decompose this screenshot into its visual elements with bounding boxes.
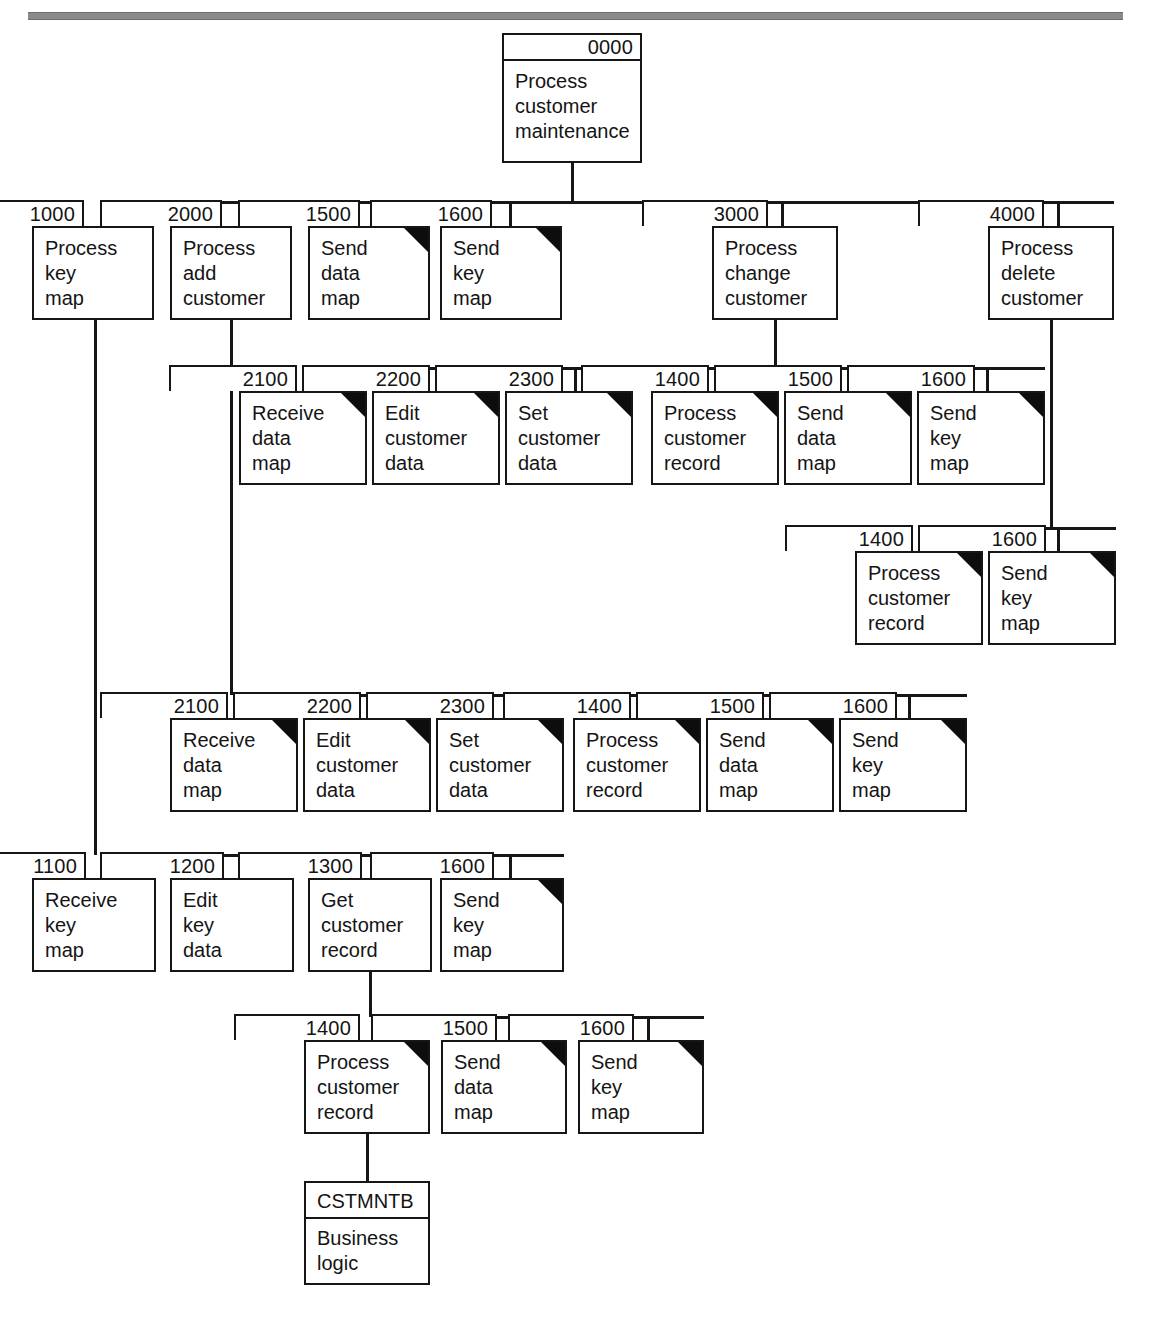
- module-number-tab: 1400: [234, 1014, 360, 1040]
- module-1600-keymap[interactable]: 1600 Send key map: [370, 852, 564, 972]
- module-number-tab: 1400: [503, 692, 631, 718]
- module-number: 3000: [714, 204, 759, 224]
- module-number: 1400: [859, 529, 904, 549]
- module-line-1: Process: [515, 69, 640, 94]
- structure-chart-canvas: 0000 Process customer maintenance 1000 P…: [0, 0, 1151, 1336]
- module-box[interactable]: Send key map: [917, 391, 1045, 485]
- module-number: 1500: [443, 1018, 488, 1038]
- module-number-tab: 1200: [100, 852, 224, 878]
- module-1600-add[interactable]: 1600 Send key map: [769, 692, 967, 812]
- module-line-3: map: [453, 286, 560, 311]
- store-line-2: logic: [317, 1251, 428, 1276]
- module-number-tab: 1600: [769, 692, 897, 718]
- module-cstmntb[interactable]: CSTMNTB Business logic: [304, 1181, 430, 1285]
- module-number: 2300: [440, 696, 485, 716]
- module-number-tab: 1600: [508, 1014, 634, 1040]
- module-number-tab: 1100: [0, 852, 86, 878]
- module-number: 1500: [788, 369, 833, 389]
- module-line-2: key: [852, 753, 965, 778]
- module-line-2: key: [930, 426, 1043, 451]
- module-number-tab: 4000: [918, 200, 1044, 226]
- module-line-3: customer: [1001, 286, 1112, 311]
- module-number-tab: 3000: [642, 200, 768, 226]
- module-line-3: map: [453, 938, 562, 963]
- module-box[interactable]: Send key map: [440, 878, 564, 972]
- module-number-tab: 1600: [847, 365, 975, 391]
- module-number-tab: 2100: [169, 365, 297, 391]
- module-number: 1600: [992, 529, 1037, 549]
- module-line-3: maintenance: [515, 119, 640, 144]
- store-box[interactable]: CSTMNTB Business logic: [304, 1181, 430, 1285]
- module-number-tab: 2300: [366, 692, 494, 718]
- module-line-3: map: [852, 778, 965, 803]
- module-box[interactable]: Send key map: [988, 551, 1116, 645]
- module-number: 2300: [509, 369, 554, 389]
- module-3000[interactable]: 3000 Process change customer: [642, 200, 838, 320]
- module-line-3: customer: [725, 286, 836, 311]
- module-number: 1600: [438, 204, 483, 224]
- module-box[interactable]: Send key map: [440, 226, 562, 320]
- module-line-2: customer: [515, 94, 640, 119]
- module-box[interactable]: Send key map: [839, 718, 967, 812]
- module-number-tab: 1600: [370, 852, 494, 878]
- module-1600-get[interactable]: 1600 Send key map: [508, 1014, 704, 1134]
- module-number-tab: 2200: [302, 365, 430, 391]
- module-number-tab: 1500: [371, 1014, 497, 1040]
- module-line-3: map: [930, 451, 1043, 476]
- common-module-corner-icon: [1019, 393, 1043, 417]
- module-line-1: Process: [725, 236, 836, 261]
- module-number: 1400: [655, 369, 700, 389]
- store-body: Business logic: [306, 1219, 428, 1276]
- module-line-2: key: [591, 1075, 702, 1100]
- module-box[interactable]: Process customer maintenance: [502, 59, 642, 163]
- module-number-tab: 1500: [636, 692, 764, 718]
- module-number-tab: 1500: [714, 365, 842, 391]
- module-number-tab: 1600: [918, 525, 1046, 551]
- module-number: 2200: [376, 369, 421, 389]
- module-number-tab: 2300: [435, 365, 563, 391]
- store-line-1: Business: [317, 1226, 428, 1251]
- module-number: 2100: [174, 696, 219, 716]
- module-box[interactable]: Process delete customer: [988, 226, 1114, 320]
- module-number: 1400: [577, 696, 622, 716]
- module-box[interactable]: Process change customer: [712, 226, 838, 320]
- module-number-tab: 2200: [233, 692, 361, 718]
- module-number: 1600: [440, 856, 485, 876]
- module-line-2: key: [453, 913, 562, 938]
- module-number: 1400: [306, 1018, 351, 1038]
- module-number: 2000: [168, 204, 213, 224]
- module-number-tab: 1000: [0, 200, 84, 226]
- common-module-corner-icon: [538, 880, 562, 904]
- module-1600-change[interactable]: 1600 Send key map: [847, 365, 1045, 485]
- module-number: 1500: [306, 204, 351, 224]
- module-number: 2200: [307, 696, 352, 716]
- module-line-1: Process: [1001, 236, 1112, 261]
- module-number-tab: 0000: [502, 33, 642, 59]
- module-number: 1500: [710, 696, 755, 716]
- module-line-2: change: [725, 261, 836, 286]
- header-rule: [28, 12, 1123, 20]
- module-1600-delete[interactable]: 1600 Send key map: [918, 525, 1116, 645]
- common-module-corner-icon: [1090, 553, 1114, 577]
- module-4000[interactable]: 4000 Process delete customer: [918, 200, 1114, 320]
- module-number-tab: 1600: [370, 200, 492, 226]
- module-line-3: map: [1001, 611, 1114, 636]
- module-number-tab: 2100: [100, 692, 228, 718]
- module-number: 0000: [588, 37, 633, 57]
- module-line-3: map: [591, 1100, 702, 1125]
- common-module-corner-icon: [536, 228, 560, 252]
- module-line-2: key: [453, 261, 560, 286]
- module-0000[interactable]: 0000 Process customer maintenance: [502, 33, 642, 163]
- module-number: 4000: [990, 204, 1035, 224]
- common-module-corner-icon: [941, 720, 965, 744]
- module-1600-send-key-map[interactable]: 1600 Send key map: [370, 200, 562, 320]
- module-number: 1000: [30, 204, 75, 224]
- common-module-corner-icon: [678, 1042, 702, 1066]
- module-number: 1600: [580, 1018, 625, 1038]
- module-number-tab: 1400: [581, 365, 709, 391]
- module-line-2: key: [1001, 586, 1114, 611]
- module-box[interactable]: Send key map: [578, 1040, 704, 1134]
- module-number-tab: 1500: [238, 200, 360, 226]
- module-number: 1600: [921, 369, 966, 389]
- module-number: 1300: [308, 856, 353, 876]
